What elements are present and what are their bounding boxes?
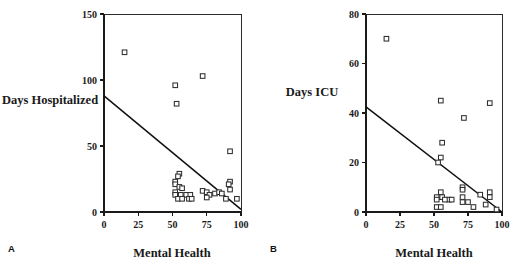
x-tick-label: 50 (429, 219, 439, 230)
y-tick-label: 0 (354, 207, 359, 218)
data-point (439, 98, 444, 103)
x-tick-label: 100 (234, 219, 249, 230)
y-axis-title: Days Hospitalized (2, 93, 98, 107)
data-point (443, 197, 448, 202)
data-point (487, 101, 492, 106)
data-point (200, 74, 205, 79)
data-point (462, 116, 467, 121)
x-tick-label: 50 (168, 219, 178, 230)
figure-container: 0501001500255075100Days HospitalizedMent… (0, 0, 528, 275)
plot-axes (366, 14, 502, 212)
x-axis-title: Mental Health (133, 246, 210, 260)
data-point (176, 174, 181, 179)
data-point (494, 207, 499, 212)
y-tick-label: 150 (82, 9, 97, 20)
data-point (439, 190, 444, 195)
data-point (228, 187, 233, 192)
data-point (460, 200, 465, 205)
data-point (204, 195, 209, 200)
data-point (466, 200, 471, 205)
data-point (384, 36, 389, 41)
data-point (487, 195, 492, 200)
data-point (228, 149, 233, 154)
panel-b: 0204060800255075100Days ICUMental Health… (264, 0, 528, 275)
x-tick-label: 0 (364, 219, 369, 230)
data-point (439, 155, 444, 160)
y-tick-label: 100 (82, 75, 97, 86)
data-point (436, 160, 441, 165)
data-point (478, 192, 483, 197)
data-point (434, 197, 439, 202)
data-point (440, 140, 445, 145)
y-tick-label: 20 (349, 157, 359, 168)
data-point (460, 195, 465, 200)
panel-a: 0501001500255075100Days HospitalizedMent… (0, 0, 264, 275)
scatter-plot-b: 0204060800255075100Days ICUMental Health… (264, 0, 528, 275)
x-tick-label: 25 (133, 219, 143, 230)
x-tick-label: 75 (463, 219, 473, 230)
y-tick-label: 80 (349, 9, 359, 20)
data-point (174, 101, 179, 106)
data-point (122, 50, 127, 55)
plot-frame (366, 14, 502, 212)
x-tick-label: 100 (495, 219, 510, 230)
panel-letter-label: B (270, 243, 277, 254)
data-point (235, 197, 240, 202)
y-tick-label: 40 (349, 108, 359, 119)
y-tick-label: 50 (87, 141, 97, 152)
data-point (471, 205, 476, 210)
x-tick-label: 0 (102, 219, 107, 230)
y-tick-label: 0 (92, 207, 97, 218)
x-axis-title: Mental Health (395, 246, 472, 260)
data-point (180, 186, 185, 191)
data-point (189, 197, 194, 202)
data-point (226, 182, 231, 187)
data-point (220, 191, 225, 196)
data-point (224, 197, 229, 202)
data-point (173, 83, 178, 88)
data-point (483, 202, 488, 207)
x-tick-label: 75 (202, 219, 212, 230)
data-point (439, 205, 444, 210)
panel-letter-label: A (8, 243, 15, 254)
y-axis-title: Days ICU (286, 85, 338, 99)
y-tick-label: 60 (349, 58, 359, 69)
data-point (449, 197, 454, 202)
data-point (487, 190, 492, 195)
data-point (460, 187, 465, 192)
scatter-plot-a: 0501001500255075100Days HospitalizedMent… (0, 0, 264, 275)
x-tick-label: 25 (395, 219, 405, 230)
data-point (180, 197, 185, 202)
